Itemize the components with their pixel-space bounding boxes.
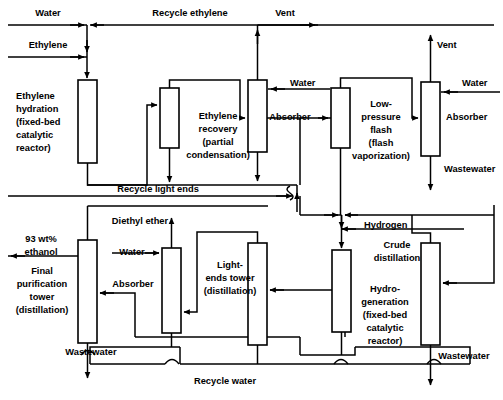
- label-hydro-1: Hydro-: [370, 284, 400, 294]
- label-recycle-water: Recycle water: [194, 376, 256, 386]
- label-light-ends-2: ends tower: [205, 273, 254, 283]
- label-final-tower-4: (distillation): [16, 305, 69, 315]
- label-ethanol-1: 93 wt%: [25, 234, 57, 244]
- label-recovery-4: condensation): [186, 150, 250, 160]
- unit-crude-distillation[interactable]: [421, 243, 440, 345]
- label-hydration-5: reactor): [16, 143, 51, 153]
- label-flash-4: (flash: [369, 138, 394, 148]
- label-absorber-1: Absorber: [269, 112, 311, 122]
- label-ethanol-2: ethanol: [24, 247, 57, 257]
- label-wastewater-absorber2: Wastewater: [444, 164, 496, 174]
- label-vent-1: Vent: [275, 8, 295, 18]
- label-water-absorber1: Water: [290, 78, 316, 88]
- label-flash-5: vaporization): [352, 151, 410, 161]
- label-recovery-2: recovery: [199, 124, 239, 134]
- label-recycle-light-ends: Recycle light ends: [117, 184, 199, 194]
- label-crude-2: distillation: [374, 253, 421, 263]
- label-absorber-2: Absorber: [446, 112, 488, 122]
- unit-hydrogenation-reactor[interactable]: [332, 250, 351, 332]
- label-final-tower-3: tower: [30, 292, 55, 302]
- label-water-absorber3: Water: [119, 247, 145, 257]
- unit-absorber-top-2[interactable]: [421, 82, 440, 156]
- label-flash-3: flash: [370, 125, 392, 135]
- line-recycle-into-crude: [443, 205, 494, 283]
- label-hydration-3: (fixed-bed: [16, 117, 61, 127]
- unit-final-purification-tower[interactable]: [78, 240, 97, 343]
- label-hydro-3: (fixed-bed: [363, 310, 408, 320]
- unit-absorber-top-1[interactable]: [248, 80, 267, 152]
- label-final-tower-1: Final: [31, 266, 53, 276]
- label-absorber-3: Absorber: [112, 279, 154, 289]
- line-into-final-tower-side: [100, 293, 135, 337]
- flow-diagram-canvas: Water Ethylene Recycle ethylene Vent Eth…: [0, 0, 503, 400]
- label-wastewater-right: Wastewater: [438, 351, 490, 361]
- line-absorber1-to-flash-riser: [267, 118, 300, 185]
- label-light-ends-1: Light-: [217, 260, 243, 270]
- line-hydro-bottoms-join: [300, 347, 355, 355]
- label-hydrogen: Hydrogen: [364, 220, 408, 230]
- label-recycle-ethylene: Recycle ethylene: [152, 8, 227, 18]
- unit-ethylene-hydration-reactor[interactable]: [78, 80, 97, 163]
- label-hydration-1: Ethylene: [16, 91, 55, 101]
- label-water-absorber2: Water: [462, 78, 488, 88]
- label-recovery-3: (partial: [203, 137, 234, 147]
- unit-ethylene-recovery[interactable]: [160, 88, 179, 148]
- label-flash-1: Low-: [370, 99, 392, 109]
- label-light-ends-3: (distillation): [204, 286, 257, 296]
- label-hydration-4: catalytic: [16, 130, 53, 140]
- line-reactor-to-ethylene-recovery: [88, 105, 158, 185]
- label-hydro-4: catalytic: [366, 323, 403, 333]
- unit-low-pressure-flash[interactable]: [331, 88, 350, 148]
- unit-absorber-bottom[interactable]: [162, 248, 181, 333]
- label-hydro-5: reactor): [368, 336, 403, 346]
- label-hydration-2: hydration: [16, 104, 59, 114]
- label-vent-2: Vent: [437, 40, 457, 50]
- label-water-top: Water: [35, 8, 61, 18]
- label-diethyl-ether: Diethyl ether: [112, 216, 169, 226]
- label-flash-2: pressure: [361, 112, 400, 122]
- line-light-ends-overhead-to-absorber: [184, 232, 258, 312]
- label-recovery-1: Ethylene: [199, 111, 238, 121]
- label-crude-1: Crude: [384, 240, 411, 250]
- label-final-tower-2: purification: [17, 279, 68, 289]
- line-hop-recycle-1: [165, 360, 179, 365]
- line-hop-crossing-upper: [287, 186, 293, 200]
- label-wastewater-left: Wastewater: [65, 347, 117, 357]
- process-flow-diagram: Water Ethylene Recycle ethylene Vent Eth…: [0, 0, 503, 400]
- label-hydro-2: generation: [361, 297, 409, 307]
- label-ethylene: Ethylene: [29, 40, 68, 50]
